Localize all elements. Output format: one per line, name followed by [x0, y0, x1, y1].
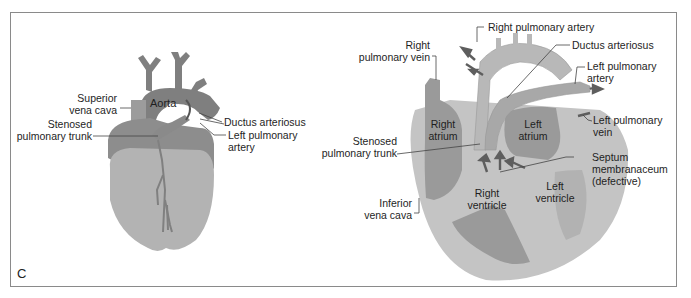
label-left-ventricle: Left ventricle	[530, 180, 580, 204]
label-stenosed-pulmonary-trunk-external: Stenosed pulmonary trunk	[10, 118, 92, 142]
label-superior-vena-cava: Superior vena cava	[57, 92, 117, 116]
label-left-pulmonary-artery-section: Left pulmonary artery	[587, 60, 656, 84]
panel-letter: C	[17, 266, 26, 281]
label-aorta: Aorta	[150, 97, 176, 109]
label-right-pulmonary-artery: Right pulmonary artery	[488, 21, 594, 33]
label-right-ventricle: Right ventricle	[462, 187, 512, 211]
label-inferior-vena-cava: Inferior vena cava	[350, 197, 412, 221]
external-heart	[93, 52, 226, 251]
label-ductus-arteriosus-external: Ductus arteriosus	[224, 116, 306, 128]
label-left-atrium: Left atrium	[513, 118, 553, 142]
label-stenosed-pulmonary-trunk-section: Stenosed pulmonary trunk	[320, 135, 397, 159]
label-septum-membranaceum: Septum membranaceum (defective)	[592, 151, 668, 187]
label-right-pulmonary-vein: Right pulmonary vein	[346, 39, 430, 63]
label-left-pulmonary-artery-external: Left pulmonary artery	[228, 129, 297, 153]
label-right-atrium: Right atrium	[418, 118, 468, 142]
label-ductus-arteriosus-section: Ductus arteriosus	[572, 39, 654, 51]
label-left-pulmonary-vein: Left pulmonary vein	[593, 114, 662, 138]
